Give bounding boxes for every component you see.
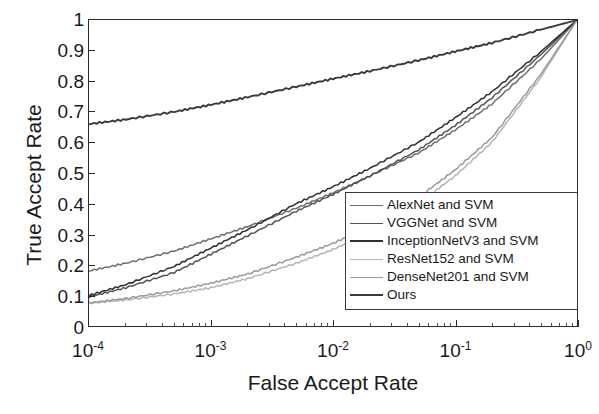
legend-line-swatch [350, 240, 383, 242]
y-tick-mark [88, 265, 95, 266]
x-tick-label: 100 [564, 341, 592, 360]
x-tick-minor-mark [327, 323, 328, 327]
y-tick-mark [88, 142, 95, 143]
legend-line-swatch [350, 223, 383, 224]
x-tick-minor-mark [419, 323, 420, 327]
x-tick-minor-mark [450, 323, 451, 327]
x-tick-minor-mark [437, 323, 438, 327]
x-tick-mark [456, 320, 457, 327]
x-tick-minor-mark [407, 323, 408, 327]
legend-item-label: VGGNet and SVM [387, 216, 497, 230]
legend-item-label: ResNet152 and SVM [387, 252, 514, 266]
x-tick-minor-mark [296, 323, 297, 327]
y-tick-mark [88, 50, 95, 51]
legend-item[interactable]: AlexNet and SVM [346, 196, 577, 214]
legend-line-swatch [350, 277, 383, 278]
x-tick-label: 10-4 [72, 341, 104, 360]
legend-item-label: InceptionNetV3 and SVM [387, 234, 539, 248]
x-axis-tick-labels: 10-410-310-210-1100 [0, 333, 599, 373]
legend-item[interactable]: DenseNet201 and SVM [346, 268, 577, 286]
y-tick-label: 0.8 [58, 71, 84, 90]
y-tick-label: 0.9 [58, 40, 84, 59]
y-tick-label: 0.1 [58, 287, 84, 306]
x-tick-label: 10-2 [317, 341, 349, 360]
x-tick-minor-mark [391, 323, 392, 327]
roc-curve [89, 20, 577, 124]
x-tick-minor-mark [205, 323, 206, 327]
x-tick-minor-mark [551, 323, 552, 327]
y-tick-mark [88, 296, 95, 297]
x-tick-label: 10-1 [440, 341, 472, 360]
x-tick-minor-mark [306, 323, 307, 327]
x-tick-label: 10-3 [195, 341, 227, 360]
x-tick-minor-mark [162, 323, 163, 327]
x-tick-minor-mark [269, 323, 270, 327]
x-tick-minor-mark [444, 323, 445, 327]
x-tick-minor-mark [514, 323, 515, 327]
legend-item[interactable]: InceptionNetV3 and SVM [346, 232, 577, 250]
x-axis-label: False Accept Rate [88, 371, 578, 395]
x-tick-minor-mark [174, 323, 175, 327]
y-axis-label: True Accept Rate [22, 55, 46, 315]
x-tick-minor-mark [566, 323, 567, 327]
legend-item[interactable]: VGGNet and SVM [346, 214, 577, 232]
y-tick-label: 0.6 [58, 133, 84, 152]
x-tick-minor-mark [428, 323, 429, 327]
x-tick-minor-mark [199, 323, 200, 327]
x-tick-minor-mark [284, 323, 285, 327]
y-tick-mark [88, 235, 95, 236]
y-tick-mark [88, 173, 95, 174]
x-tick-minor-mark [183, 323, 184, 327]
x-tick-minor-mark [572, 323, 573, 327]
y-tick-label: 0.7 [58, 102, 84, 121]
x-tick-minor-mark [314, 323, 315, 327]
x-tick-minor-mark [192, 323, 193, 327]
y-tick-mark [88, 81, 95, 82]
x-tick-minor-mark [321, 323, 322, 327]
x-tick-mark [211, 320, 212, 327]
y-tick-mark [88, 111, 95, 112]
x-tick-minor-mark [541, 323, 542, 327]
x-tick-minor-mark [146, 323, 147, 327]
x-tick-minor-mark [529, 323, 530, 327]
y-tick-label: 0.3 [58, 225, 84, 244]
y-tick-mark [88, 204, 95, 205]
chart-legend: AlexNet and SVMVGGNet and SVMInceptionNe… [345, 192, 578, 310]
roc-chart-figure: 00.10.20.30.40.50.60.70.80.91 True Accep… [0, 0, 599, 414]
x-tick-minor-mark [559, 323, 560, 327]
legend-line-swatch [350, 205, 383, 206]
y-tick-label: 0.4 [58, 194, 84, 213]
legend-item-label: DenseNet201 and SVM [387, 270, 529, 284]
legend-item-label: Ours [387, 288, 416, 302]
legend-item[interactable]: ResNet152 and SVM [346, 250, 577, 268]
x-tick-minor-mark [247, 323, 248, 327]
legend-line-swatch [350, 294, 383, 296]
x-tick-minor-mark [492, 323, 493, 327]
legend-item-label: AlexNet and SVM [387, 198, 494, 212]
x-tick-mark [333, 320, 334, 327]
y-tick-label: 0.5 [58, 164, 84, 183]
y-tick-label: 0.2 [58, 256, 84, 275]
legend-item[interactable]: Ours [346, 286, 577, 304]
x-tick-mark [88, 320, 89, 327]
legend-line-swatch [350, 259, 383, 260]
x-tick-minor-mark [370, 323, 371, 327]
x-tick-minor-mark [125, 323, 126, 327]
x-tick-mark [578, 320, 579, 327]
y-tick-label: 1 [73, 10, 84, 29]
